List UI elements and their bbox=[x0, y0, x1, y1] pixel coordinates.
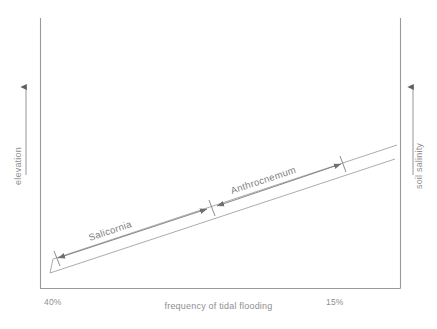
x-axis-title: frequency of tidal flooding bbox=[0, 301, 437, 311]
band-upper-line bbox=[53, 145, 397, 259]
salicornia-extent-line bbox=[58, 209, 207, 258]
diagram-canvas bbox=[0, 0, 437, 329]
figure-container: Salicornia Anthrocnemum 40% 15% frequenc… bbox=[0, 0, 437, 329]
zonation-band bbox=[50, 145, 397, 273]
band-left-cap bbox=[50, 259, 53, 273]
left-axis-title-elevation: elevation bbox=[13, 131, 23, 201]
zone-boundary-tick bbox=[209, 200, 215, 216]
plot-frame bbox=[40, 18, 401, 289]
right-axis-title-soil-salinity: soil salinity bbox=[414, 131, 424, 201]
band-lower-line bbox=[50, 159, 395, 273]
